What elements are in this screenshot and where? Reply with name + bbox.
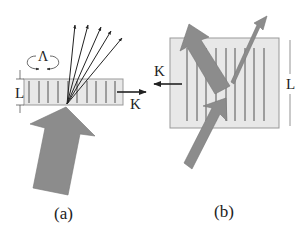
panel-b [154,16,290,169]
thickness-label-b: L [286,77,295,92]
lambda-label: Λ [38,50,48,64]
k-label-b: K [154,64,165,79]
k-label-a: K [130,97,141,112]
thickness-label-a: L [15,86,24,101]
panel-a [16,25,146,195]
incident-beam-arrow-a [30,107,95,195]
caption-b: (b) [214,203,234,220]
diagram-canvas [0,0,306,232]
caption-a: (a) [54,205,73,222]
